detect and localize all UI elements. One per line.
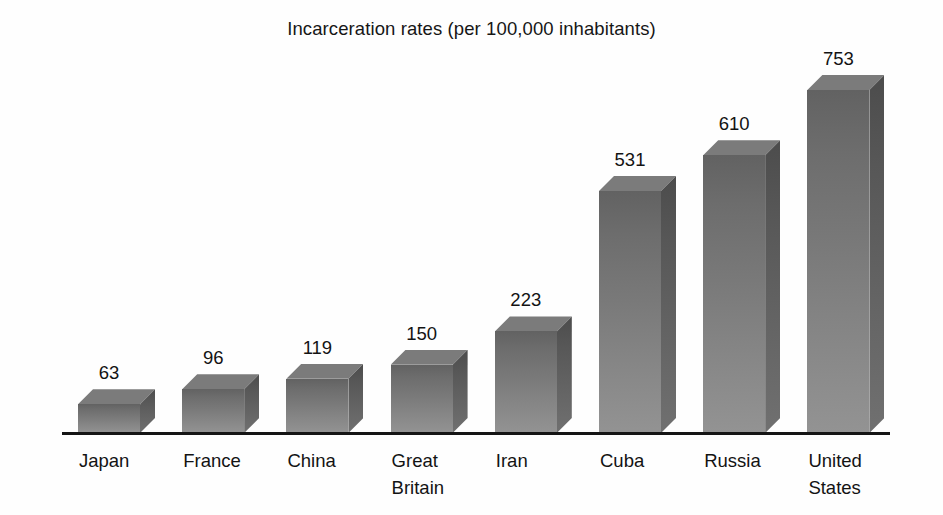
bar-russia[interactable] <box>703 140 780 433</box>
bar-front-face <box>78 404 140 433</box>
category-label-line: France <box>183 447 241 474</box>
bar-front-face <box>599 191 661 433</box>
bar-front-face <box>391 365 453 433</box>
category-label-line: Great <box>392 447 444 474</box>
bar-front-face <box>495 331 557 433</box>
bar-france[interactable] <box>182 374 259 433</box>
category-label-line: China <box>287 447 335 474</box>
plot-area: 6396119150223531610753 JapanFranceChinaG… <box>0 0 943 515</box>
bar-value-label: 119 <box>274 338 360 358</box>
baseline-axis <box>62 432 890 435</box>
category-label-united-states: UnitedStates <box>808 447 861 501</box>
bar-cuba[interactable] <box>599 176 676 433</box>
category-label-line: Britain <box>392 474 444 501</box>
bar-value-label: 150 <box>379 324 465 344</box>
bar-japan[interactable] <box>78 389 155 433</box>
bar-front-face <box>286 379 348 433</box>
chart-figure: Incarceration rates (per 100,000 inhabit… <box>0 0 943 515</box>
category-label-great-britain: GreatBritain <box>392 447 444 501</box>
category-label-iran: Iran <box>496 447 528 474</box>
category-label-line: Cuba <box>600 447 644 474</box>
bar-united-states[interactable] <box>807 75 884 433</box>
category-label-russia: Russia <box>704 447 761 474</box>
bar-side-face <box>869 75 884 433</box>
bar-side-face <box>557 316 572 433</box>
bar-side-face <box>661 176 676 433</box>
bar-value-label: 63 <box>66 363 152 383</box>
category-label-line: Japan <box>79 447 129 474</box>
bar-iran[interactable] <box>495 316 572 433</box>
bar-value-label: 223 <box>483 290 569 310</box>
category-label-line: United <box>808 447 861 474</box>
bar-side-face <box>765 140 780 433</box>
bar-front-face <box>703 155 765 433</box>
category-label-line: Iran <box>496 447 528 474</box>
bar-value-label: 531 <box>587 150 673 170</box>
bar-great-britain[interactable] <box>391 350 468 433</box>
category-label-cuba: Cuba <box>600 447 644 474</box>
category-label-line: Russia <box>704 447 761 474</box>
bar-front-face <box>182 389 244 433</box>
category-label-line: States <box>808 474 861 501</box>
category-label-china: China <box>287 447 335 474</box>
bar-value-label: 610 <box>691 114 777 134</box>
category-label-france: France <box>183 447 241 474</box>
bar-value-label: 753 <box>795 49 881 69</box>
bar-china[interactable] <box>286 364 363 433</box>
category-label-japan: Japan <box>79 447 129 474</box>
bar-value-label: 96 <box>170 348 256 368</box>
bar-front-face <box>807 90 869 433</box>
